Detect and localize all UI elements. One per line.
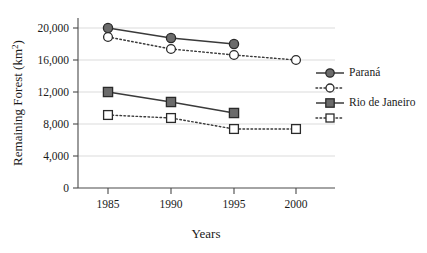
- series-open-square-line: [108, 115, 296, 129]
- y-tick-label-16000: 16,000: [37, 54, 69, 67]
- legend-item-open-square[interactable]: [316, 114, 344, 122]
- legend-item-open-circle[interactable]: [316, 84, 344, 92]
- y-axis-ticks: [73, 28, 78, 188]
- legend-filled-circle-icon: [326, 69, 334, 77]
- series-parana-point-1995: [229, 39, 238, 48]
- series-rio-de-janeiro-point-1995: [229, 108, 238, 117]
- legend-item-parana[interactable]: Paraná: [316, 66, 380, 78]
- series-open-circle-point-1985: [104, 33, 113, 42]
- legend-open-square-icon: [326, 114, 334, 122]
- y-axis-title-base: Remaining Forest (km: [10, 49, 25, 166]
- y-tick-label-8000: 8,000: [43, 118, 69, 131]
- y-tick-label-0: 0: [63, 182, 69, 194]
- x-axis-ticks: [108, 188, 296, 194]
- series-open-circle-point-1995: [230, 51, 239, 60]
- legend-open-circle-icon: [326, 84, 334, 92]
- series-rio-de-janeiro-point-1985: [103, 87, 112, 96]
- y-axis-title: Remaining Forest (km2): [10, 40, 25, 166]
- y-axis-title-close: ): [10, 40, 25, 44]
- axes: [78, 18, 335, 188]
- series-rio-de-janeiro-point-1990: [166, 97, 175, 106]
- series-open-circle-point-2000: [292, 56, 301, 65]
- series-open-square-point-1985: [104, 111, 113, 120]
- x-axis-title: Years: [191, 226, 220, 241]
- chart-page: 0 4,000 8,000 12,000 16,000 20,000 1985 …: [0, 0, 427, 253]
- series-open-square-point-2000: [292, 125, 301, 134]
- y-tick-label-4000: 4,000: [43, 150, 69, 163]
- series-parana-point-1985: [103, 23, 112, 32]
- x-axis-tick-labels: 1985 1990 1995 2000: [97, 198, 308, 210]
- series-open-circle-point-1990: [167, 45, 176, 54]
- series-open-square-point-1990: [167, 114, 176, 123]
- x-tick-label-2000: 2000: [285, 198, 308, 210]
- legend-label-parana: Paraná: [349, 66, 380, 78]
- y-tick-label-20000: 20,000: [37, 22, 69, 35]
- x-tick-label-1990: 1990: [160, 198, 183, 210]
- legend-filled-square-icon: [326, 99, 334, 107]
- legend-label-rio-de-janeiro: Rio de Janeiro: [349, 96, 416, 108]
- y-tick-label-12000: 12,000: [37, 86, 69, 99]
- chart-legend: Paraná Rio de Janeiro: [316, 66, 416, 122]
- x-tick-label-1985: 1985: [97, 198, 120, 210]
- x-tick-label-1995: 1995: [223, 198, 246, 210]
- series-open-square-point-1995: [230, 125, 239, 134]
- series-parana-point-1990: [166, 33, 175, 42]
- series-open-square: [104, 111, 301, 134]
- legend-item-rio-de-janeiro[interactable]: Rio de Janeiro: [316, 96, 416, 108]
- y-axis-tick-labels: 0 4,000 8,000 12,000 16,000 20,000: [37, 22, 69, 194]
- gridlines: [78, 28, 335, 156]
- forest-decline-line-chart: 0 4,000 8,000 12,000 16,000 20,000 1985 …: [0, 0, 427, 253]
